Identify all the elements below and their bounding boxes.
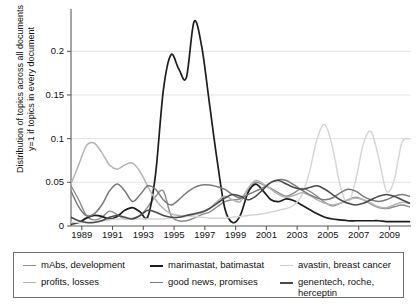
legend-line-swatch bbox=[150, 265, 163, 267]
y-tick-label: 0.1 bbox=[30, 133, 64, 144]
x-tick-label: 1989 bbox=[65, 229, 99, 240]
legend-label: marimastat, batimastat bbox=[168, 259, 264, 270]
line-chart-svg bbox=[0, 0, 417, 248]
x-tick-label: 2005 bbox=[311, 229, 345, 240]
legend-line-swatch bbox=[23, 265, 36, 266]
legend-label: avastin, breast cancer bbox=[298, 259, 391, 270]
chart-legend: mAbs, developmentmarimastat, batimastata… bbox=[13, 252, 404, 298]
legend-entry: good news, promises bbox=[150, 276, 258, 287]
legend-label: good news, promises bbox=[168, 276, 258, 287]
x-tick-label: 1999 bbox=[219, 229, 253, 240]
x-tick-label: 2007 bbox=[342, 229, 376, 240]
y-tick-label: 0 bbox=[30, 220, 64, 231]
legend-entry: avastin, breast cancer bbox=[280, 259, 391, 270]
legend-line-swatch bbox=[23, 282, 36, 283]
x-tick-label: 2009 bbox=[372, 229, 406, 240]
chart-screenshot: Distribution of topics across all docume… bbox=[0, 0, 417, 308]
legend-line-swatch bbox=[280, 282, 293, 284]
legend-label: profits, losses bbox=[41, 276, 99, 287]
y-tick-label: 0.2 bbox=[30, 45, 64, 56]
legend-entry: genentech, roche, herceptin bbox=[280, 276, 374, 298]
series-line-2 bbox=[71, 124, 409, 222]
x-tick-label: 1993 bbox=[126, 229, 160, 240]
x-tick-label: 1997 bbox=[188, 229, 222, 240]
legend-line-swatch bbox=[150, 282, 163, 283]
legend-entry: profits, losses bbox=[23, 276, 99, 287]
x-tick-label: 2003 bbox=[280, 229, 314, 240]
legend-label: mAbs, development bbox=[41, 259, 125, 270]
legend-entry: mAbs, development bbox=[23, 259, 125, 270]
chart-plot-area: Distribution of topics across all docume… bbox=[0, 0, 417, 248]
x-tick-label: 2001 bbox=[249, 229, 283, 240]
y-tick-label: 0.15 bbox=[30, 89, 64, 100]
legend-line-swatch bbox=[280, 265, 293, 266]
x-tick-label: 1991 bbox=[96, 229, 130, 240]
y-tick-label: 0.05 bbox=[30, 176, 64, 187]
legend-entry: marimastat, batimastat bbox=[150, 259, 264, 270]
x-tick-label: 1995 bbox=[157, 229, 191, 240]
legend-label: genentech, roche, herceptin bbox=[298, 276, 374, 298]
